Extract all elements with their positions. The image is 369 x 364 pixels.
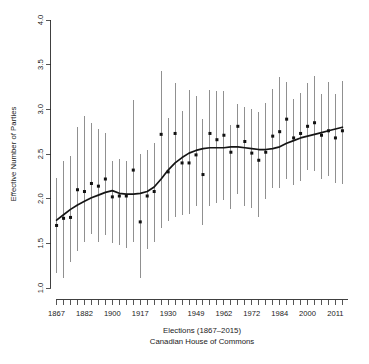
confidence-interval-bars xyxy=(57,71,343,278)
data-point xyxy=(334,136,337,139)
data-point xyxy=(264,151,267,154)
x-tick-label: 1962 xyxy=(215,309,232,318)
data-point xyxy=(215,138,218,141)
data-point xyxy=(285,118,288,121)
y-tick-label: 1.0 xyxy=(36,283,45,294)
data-point xyxy=(341,129,344,132)
data-point xyxy=(62,217,65,220)
y-tick-label: 4.0 xyxy=(36,15,45,26)
x-tick-label: 2000 xyxy=(299,309,316,318)
data-point xyxy=(69,216,72,219)
data-point xyxy=(76,188,79,191)
y-tick-label: 3.5 xyxy=(36,59,45,70)
x-axis-tick-labels: 1867188219001917193019491962197219842000… xyxy=(48,309,343,318)
y-axis-title: Effective Number of Parties xyxy=(9,107,18,202)
data-point xyxy=(236,125,239,128)
x-tick-label: 1917 xyxy=(132,309,149,318)
chart-container: 1.01.52.02.53.03.54.0 186718821900191719… xyxy=(0,0,369,364)
data-point xyxy=(181,161,184,164)
data-point xyxy=(139,220,142,223)
data-point xyxy=(229,151,232,154)
data-point xyxy=(299,132,302,135)
data-point xyxy=(195,153,198,156)
y-axis-ticks xyxy=(46,20,51,288)
data-point xyxy=(132,169,135,172)
y-axis-group: 1.01.52.02.53.03.54.0 xyxy=(36,15,51,294)
x-tick-label: 2011 xyxy=(327,309,343,318)
data-point xyxy=(104,178,107,181)
data-point xyxy=(111,195,114,198)
data-point xyxy=(208,132,211,135)
x-tick-label: 1949 xyxy=(188,309,205,318)
y-tick-label: 2.0 xyxy=(36,193,45,204)
data-point xyxy=(146,194,149,197)
x-axis-group: 1867188219001917193019491962197219842000… xyxy=(48,300,348,319)
x-tick-label: 1900 xyxy=(104,309,121,318)
data-point xyxy=(55,224,58,227)
data-point xyxy=(201,173,204,176)
data-point xyxy=(292,136,295,139)
data-point xyxy=(320,134,323,137)
y-tick-label: 3.0 xyxy=(36,104,45,115)
data-point xyxy=(90,182,93,185)
trend-line xyxy=(57,127,343,220)
data-point xyxy=(257,159,260,162)
data-point xyxy=(313,121,316,124)
data-point xyxy=(243,140,246,143)
y-tick-label: 1.5 xyxy=(36,238,45,249)
data-point xyxy=(250,152,253,155)
x-tick-label: 1972 xyxy=(243,309,260,318)
y-tick-label: 2.5 xyxy=(36,149,45,160)
x-axis-title-line2: Canadian House of Commons xyxy=(150,337,255,346)
data-point xyxy=(97,185,100,188)
x-tick-label: 1882 xyxy=(76,309,93,318)
data-point xyxy=(174,132,177,135)
x-tick-label: 1867 xyxy=(48,309,65,318)
x-axis-ticks xyxy=(57,300,343,305)
x-tick-label: 1930 xyxy=(160,309,177,318)
y-axis-tick-labels: 1.01.52.02.53.03.54.0 xyxy=(36,15,45,294)
data-point xyxy=(278,130,281,133)
data-point xyxy=(188,161,191,164)
data-point xyxy=(306,125,309,128)
data-point xyxy=(222,134,225,137)
data-point xyxy=(153,190,156,193)
effective-number-of-parties-plot: 1.01.52.02.53.03.54.0 186718821900191719… xyxy=(0,0,369,364)
data-point xyxy=(118,194,121,197)
x-axis-title-line1: Elections (1867–2015) xyxy=(163,326,241,335)
data-point xyxy=(271,135,274,138)
x-tick-label: 1984 xyxy=(271,309,288,318)
data-point xyxy=(160,133,163,136)
data-point xyxy=(83,190,86,193)
